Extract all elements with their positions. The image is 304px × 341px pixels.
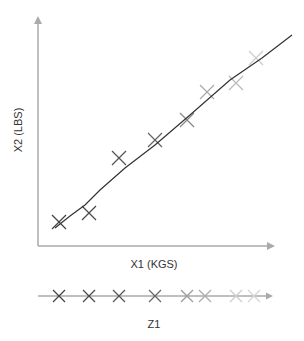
x-marker-icon	[229, 76, 243, 90]
y-axis-label: X2 (LBS)	[12, 108, 24, 153]
x-marker-icon	[180, 113, 194, 127]
data-points	[52, 51, 263, 229]
x-axis-label: X1 (KGS)	[130, 258, 177, 270]
y-axis-arrow-icon	[34, 16, 42, 24]
x-marker-icon	[200, 85, 214, 99]
fit-line	[55, 35, 292, 228]
z1-axis-label: Z1	[148, 318, 161, 330]
x-marker-icon	[52, 215, 66, 229]
x-marker-icon	[82, 206, 96, 220]
x-marker-icon	[249, 51, 263, 65]
pca-diagram: X2 (LBS) X1 (KGS) Z1	[0, 0, 304, 341]
z1-axis-arrow-icon	[266, 293, 273, 300]
x-axis-arrow-icon	[267, 242, 275, 250]
x-marker-icon	[112, 151, 126, 165]
main-axes	[34, 16, 275, 250]
